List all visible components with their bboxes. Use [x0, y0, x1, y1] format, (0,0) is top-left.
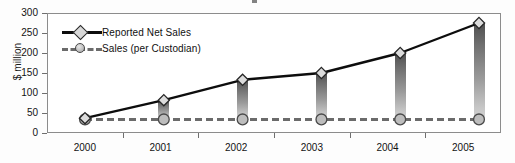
circle-marker-icon [75, 43, 85, 53]
data-point-sales-per-custodian [474, 114, 485, 125]
legend-label-reported-net-sales: Reported Net Sales [102, 27, 191, 38]
data-point-reported-net-sales [473, 17, 484, 28]
legend-key-solid-diamond [62, 25, 102, 39]
data-point-reported-net-sales [237, 74, 248, 85]
data-point-reported-net-sales [158, 95, 169, 106]
data-point-reported-net-sales [316, 67, 327, 78]
legend-label-sales-per-custodian: Sales (per Custodian) [102, 43, 201, 54]
legend-key-dashed-circle [62, 41, 102, 55]
data-point-sales-per-custodian [158, 114, 169, 125]
chart-container: $ million 050100150200250300 20002001200… [0, 0, 515, 163]
chart-legend: Reported Net Sales Sales (per Custodian) [62, 24, 201, 56]
legend-item-sales-per-custodian: Sales (per Custodian) [62, 40, 201, 56]
data-point-sales-per-custodian [237, 114, 248, 125]
legend-item-reported-net-sales: Reported Net Sales [62, 24, 201, 40]
data-point-reported-net-sales [395, 47, 406, 58]
data-point-sales-per-custodian [316, 114, 327, 125]
data-point-sales-per-custodian [395, 114, 406, 125]
diamond-marker-icon [73, 25, 89, 41]
